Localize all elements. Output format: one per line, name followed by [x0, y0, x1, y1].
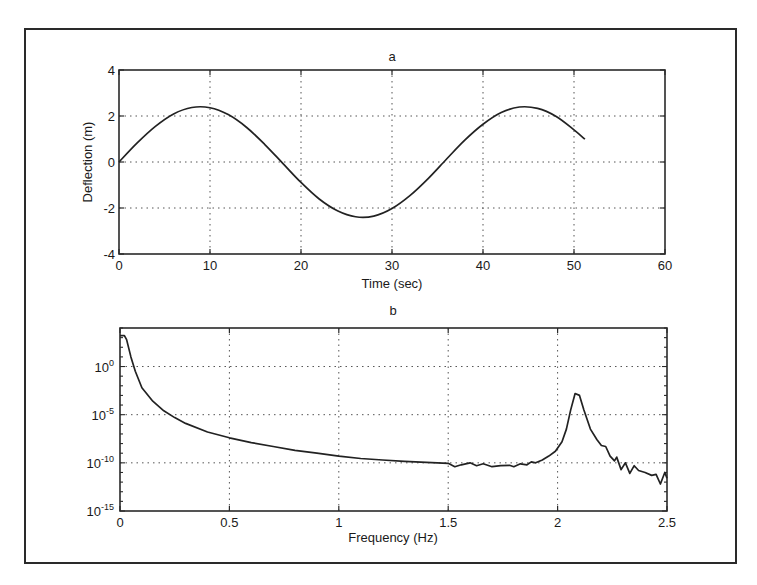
plot-b-ytick-label: 10-5 — [92, 406, 114, 423]
plot-a-xtick-label: 0 — [115, 258, 122, 273]
plot-b-axes-box — [120, 328, 667, 511]
plot-a-ytick-label: -4 — [103, 247, 115, 262]
plot-a-xtick-label: 10 — [203, 258, 217, 273]
plot-b-spectrum-curve — [120, 336, 667, 484]
plot-a-deflection: 0102030405060420-2-4 a Time (sec) Deflec… — [80, 49, 672, 291]
plot-a-ticks: 0102030405060420-2-4 — [103, 63, 672, 273]
plot-b-ytick-label: 10-10 — [87, 454, 114, 471]
plot-b-xtick-label: 0 — [116, 515, 123, 530]
plot-a-xtick-label: 30 — [385, 258, 399, 273]
plot-b-title: b — [389, 303, 396, 318]
plot-b-grid — [120, 328, 667, 511]
plot-a-ytick-label: 0 — [108, 155, 115, 170]
plot-a-ytick-label: 4 — [108, 63, 115, 78]
plot-b-xlabel: Frequency (Hz) — [348, 530, 438, 545]
plot-b-xtick-label: 2 — [554, 515, 561, 530]
plot-a-xtick-label: 60 — [658, 258, 672, 273]
plot-b-xtick-label: 0.5 — [220, 515, 238, 530]
figure-canvas: 0102030405060420-2-4 a Time (sec) Deflec… — [0, 0, 757, 585]
plot-a-xlabel: Time (sec) — [362, 276, 423, 291]
plot-a-grid — [119, 70, 665, 254]
plot-a-ytick-label: -2 — [103, 201, 115, 216]
plot-b-xtick-label: 2.5 — [658, 515, 676, 530]
plot-a-ylabel: Deflection (m) — [80, 122, 95, 203]
plot-a-xtick-label: 40 — [476, 258, 490, 273]
plot-a-ytick-label: 2 — [108, 109, 115, 124]
plot-a-title: a — [388, 49, 396, 64]
plot-b-xtick-label: 1.5 — [439, 515, 457, 530]
plot-b-ytick-label: 10-15 — [87, 502, 114, 519]
plot-a-xtick-label: 50 — [567, 258, 581, 273]
plot-b-ticks: 00.511.522.510010-510-1010-15 — [87, 328, 677, 530]
plot-a-xtick-label: 20 — [294, 258, 308, 273]
plot-b-xtick-label: 1 — [335, 515, 342, 530]
plot-b-spectrum: 00.511.522.510010-510-1010-15 b Frequenc… — [87, 303, 677, 545]
plot-b-ytick-label: 100 — [95, 358, 114, 375]
